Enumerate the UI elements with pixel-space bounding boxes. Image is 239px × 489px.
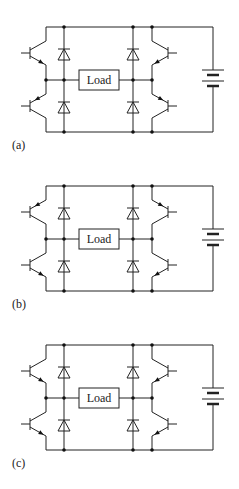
junction-dot bbox=[150, 237, 154, 241]
transistor-lead-top bbox=[152, 412, 168, 421]
junction-dot bbox=[131, 448, 135, 452]
junction-dot bbox=[150, 448, 154, 452]
transistor-icon bbox=[152, 94, 177, 118]
panel-label: (c) bbox=[12, 456, 25, 470]
junction-dot bbox=[150, 396, 154, 400]
transistor-icon bbox=[21, 359, 46, 383]
junction-dot bbox=[150, 184, 154, 188]
transistor-icon bbox=[152, 412, 177, 436]
junction-dot bbox=[62, 448, 66, 452]
transistor-icon bbox=[21, 200, 46, 224]
junction-dot bbox=[62, 78, 66, 82]
junction-dot bbox=[131, 130, 135, 134]
load-label: Load bbox=[87, 73, 112, 87]
junction-dot bbox=[62, 343, 66, 347]
battery-icon bbox=[202, 186, 224, 291]
load-label: Load bbox=[87, 391, 112, 405]
transistor-lead-bottom bbox=[152, 215, 168, 224]
junction-dot bbox=[62, 184, 66, 188]
junction-dot bbox=[131, 78, 135, 82]
junction-dot bbox=[131, 25, 135, 29]
panel-label: (b) bbox=[12, 297, 26, 311]
junction-dot bbox=[131, 237, 135, 241]
panel-a: Load(a) bbox=[12, 25, 224, 152]
transistor-lead-bottom bbox=[30, 109, 46, 118]
transistor-icon bbox=[21, 412, 46, 436]
transistor-lead-top bbox=[152, 359, 168, 368]
transistor-lead-top bbox=[30, 41, 46, 50]
junction-dot bbox=[62, 237, 66, 241]
junction-dot bbox=[62, 25, 66, 29]
transistor-icon bbox=[21, 41, 46, 65]
junction-dot bbox=[131, 289, 135, 293]
panel-b: Load(b) bbox=[12, 184, 224, 311]
transistor-lead-bottom bbox=[30, 215, 46, 224]
h-bridge-figure: Load(a) Load(b) Load(c) bbox=[0, 0, 239, 489]
junction-dot bbox=[44, 78, 48, 82]
junction-dot bbox=[131, 343, 135, 347]
battery-icon bbox=[202, 345, 224, 450]
junction-dot bbox=[150, 343, 154, 347]
junction-dot bbox=[62, 130, 66, 134]
transistor-icon bbox=[21, 94, 46, 118]
junction-dot bbox=[44, 237, 48, 241]
battery-icon bbox=[202, 27, 224, 132]
transistor-lead-bottom bbox=[152, 109, 168, 118]
transistor-lead-top bbox=[30, 253, 46, 262]
transistor-lead-top bbox=[30, 412, 46, 421]
junction-dot bbox=[150, 130, 154, 134]
transistor-icon bbox=[152, 253, 177, 277]
transistor-lead-top bbox=[152, 253, 168, 262]
junction-dot bbox=[150, 25, 154, 29]
junction-dot bbox=[131, 396, 135, 400]
panel-label: (a) bbox=[12, 138, 25, 152]
junction-dot bbox=[62, 289, 66, 293]
transistor-icon bbox=[21, 253, 46, 277]
transistor-icon bbox=[152, 200, 177, 224]
junction-dot bbox=[150, 289, 154, 293]
junction-dot bbox=[44, 396, 48, 400]
junction-dot bbox=[131, 184, 135, 188]
panel-c: Load(c) bbox=[12, 343, 224, 470]
transistor-lead-top bbox=[30, 359, 46, 368]
junction-dot bbox=[62, 396, 66, 400]
transistor-lead-top bbox=[152, 41, 168, 50]
transistor-icon bbox=[152, 359, 177, 383]
transistor-icon bbox=[152, 41, 177, 65]
junction-dot bbox=[150, 78, 154, 82]
load-label: Load bbox=[87, 232, 112, 246]
